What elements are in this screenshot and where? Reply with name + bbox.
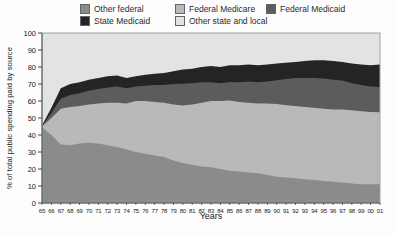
y-tick-label: 90: [28, 46, 36, 55]
y-tick-label: 20: [28, 165, 36, 174]
y-tick-label: 100: [23, 29, 36, 38]
y-tick-label: 80: [28, 63, 36, 72]
x-axis-title: Years: [42, 211, 380, 221]
stacked-area-figure: Other federalFederal MedicareFederal Med…: [0, 0, 397, 235]
plot-canvas: 0102030405060708090100656667686970717273…: [0, 0, 397, 235]
y-tick-label: 10: [28, 182, 36, 191]
y-tick-label: 0: [32, 199, 36, 208]
y-tick-label: 30: [28, 148, 36, 157]
y-axis-title: % of total public spending paid by sourc…: [5, 47, 14, 189]
y-tick-label: 40: [28, 131, 36, 140]
y-tick-label: 60: [28, 97, 36, 106]
y-tick-label: 50: [28, 114, 36, 123]
y-tick-label: 70: [28, 80, 36, 89]
